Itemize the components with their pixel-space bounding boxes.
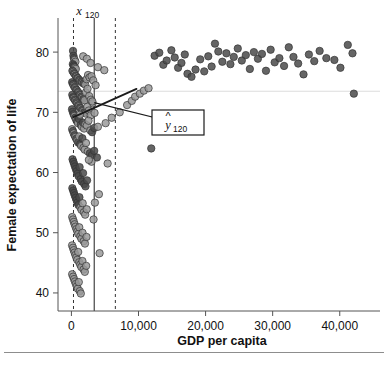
data-point xyxy=(246,65,253,72)
data-point xyxy=(192,66,199,73)
data-point xyxy=(337,64,344,71)
x-tick-label: 0 xyxy=(68,319,75,333)
y-axis-title: Female expectation of life xyxy=(5,99,19,252)
scatter-plot: 010,00020,00030,00040,000 4050607080 GDP… xyxy=(0,0,388,365)
data-point xyxy=(349,50,356,57)
y-tick-label: 70 xyxy=(36,106,50,120)
data-point xyxy=(84,85,91,92)
data-point xyxy=(108,114,115,121)
data-point xyxy=(285,44,292,51)
data-point xyxy=(92,82,99,89)
data-point xyxy=(215,48,222,55)
data-point xyxy=(305,51,312,58)
data-point xyxy=(188,73,195,80)
data-point xyxy=(89,98,96,105)
data-point xyxy=(276,54,283,61)
data-point xyxy=(280,62,287,69)
data-point xyxy=(104,160,111,167)
data-point xyxy=(258,50,265,57)
data-point xyxy=(85,117,92,124)
data-point xyxy=(311,57,318,64)
x-tick-label: 10,000 xyxy=(120,319,157,333)
data-point xyxy=(178,59,185,66)
y-hat-subscript: 120 xyxy=(173,124,187,134)
y-tick-label: 80 xyxy=(36,46,50,60)
data-point xyxy=(171,54,178,61)
data-point xyxy=(145,85,152,92)
x-tick-label: 20,000 xyxy=(187,319,224,333)
data-point xyxy=(101,66,108,73)
data-point xyxy=(197,56,204,63)
data-point xyxy=(344,41,351,48)
data-point xyxy=(85,156,92,163)
data-point xyxy=(77,290,84,297)
data-point xyxy=(94,123,101,130)
data-point xyxy=(82,139,89,146)
data-point xyxy=(201,68,208,75)
data-point xyxy=(90,216,97,223)
data-point xyxy=(79,169,86,176)
data-point xyxy=(323,54,330,61)
data-point xyxy=(234,45,241,52)
data-point xyxy=(250,48,257,55)
y-tick-label: 40 xyxy=(36,286,50,300)
x-predictor-subscript: 120 xyxy=(85,10,99,20)
data-point xyxy=(91,109,98,116)
data-point xyxy=(211,40,218,47)
data-point xyxy=(82,262,89,269)
data-point xyxy=(262,67,269,74)
data-point xyxy=(168,47,175,54)
data-point xyxy=(350,90,357,97)
data-point xyxy=(223,50,230,57)
data-point xyxy=(219,58,226,65)
data-point xyxy=(242,51,249,58)
data-point xyxy=(300,71,307,78)
data-point xyxy=(331,56,338,63)
data-point xyxy=(208,63,215,70)
data-point xyxy=(83,233,90,240)
data-point xyxy=(267,46,274,53)
data-point xyxy=(83,177,90,184)
data-point xyxy=(102,119,109,126)
data-point xyxy=(91,199,98,206)
x-tick-label: 30,000 xyxy=(254,319,291,333)
data-point xyxy=(230,53,237,60)
data-point xyxy=(156,49,163,56)
x-predictor-symbol: x xyxy=(75,4,82,18)
data-point xyxy=(181,51,188,58)
data-point xyxy=(163,57,170,64)
data-point xyxy=(290,53,297,60)
y-tick-label: 50 xyxy=(36,226,50,240)
data-point xyxy=(81,240,88,247)
data-point xyxy=(227,60,234,67)
y-hat-caret: ^ xyxy=(165,110,171,122)
data-point xyxy=(74,248,81,255)
data-point xyxy=(316,47,323,54)
data-point xyxy=(294,60,301,67)
data-point xyxy=(83,206,90,213)
x-tick-label: 40,000 xyxy=(321,319,358,333)
data-point xyxy=(205,53,212,60)
data-point xyxy=(95,191,102,198)
data-point xyxy=(96,250,103,257)
data-point xyxy=(148,145,155,152)
y-tick-label: 60 xyxy=(36,166,50,180)
data-point xyxy=(87,59,94,66)
data-point xyxy=(75,278,82,285)
figure-container: 010,00020,00030,00040,000 4050607080 GDP… xyxy=(0,0,388,365)
y-hat-annotation-box: y ^ 120 xyxy=(152,110,204,135)
x-axis-title: GDP per capita xyxy=(177,334,267,348)
